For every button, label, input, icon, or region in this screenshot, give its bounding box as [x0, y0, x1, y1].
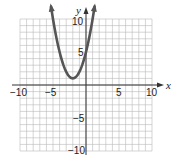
- x-tick-5: 5: [116, 87, 122, 98]
- y-tick-5: 5: [78, 47, 84, 58]
- x-tick-neg10: −10: [10, 87, 27, 98]
- x-tick-10: 10: [146, 87, 158, 98]
- y-axis-label: y: [75, 4, 81, 16]
- y-axis-arrow-icon: [84, 7, 89, 14]
- y-tick-neg10: −10: [68, 145, 85, 156]
- y-tick-neg5: −5: [73, 113, 85, 124]
- x-axis-label: x: [165, 79, 171, 91]
- curve-arrow-left-icon: [49, 4, 55, 12]
- curve-arrow-right-icon: [91, 4, 97, 12]
- coordinate-plane: x y −10 −5 5 10 10 5 −5 −10: [0, 0, 178, 165]
- y-tick-10: 10: [72, 16, 84, 27]
- x-axis-arrow-icon: [157, 83, 164, 88]
- x-tick-neg5: −5: [45, 87, 57, 98]
